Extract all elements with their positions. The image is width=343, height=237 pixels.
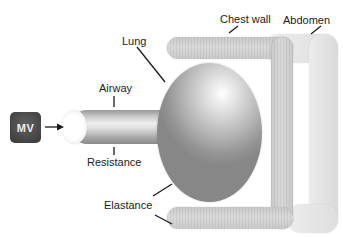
ventilation-model-diagram: MV Lung Chest wall Abdomen Airway Resist… xyxy=(0,0,343,237)
chest-wall-bottom-bar xyxy=(167,207,293,229)
lung-leader-line xyxy=(137,47,165,82)
chest-wall-right-bar xyxy=(271,37,293,229)
lung-balloon xyxy=(157,63,262,202)
lung-label: Lung xyxy=(122,35,146,47)
mv-label: MV xyxy=(17,122,35,134)
resistance-label: Resistance xyxy=(87,156,141,168)
abdomen-leader-line xyxy=(311,26,321,34)
airway-opening xyxy=(62,110,87,144)
abdomen-bottom-bar xyxy=(287,204,338,233)
mechanical-ventilator-box: MV xyxy=(10,112,41,143)
chest-wall-leader-line xyxy=(229,26,238,33)
chest-wall-label: Chest wall xyxy=(220,13,271,25)
abdomen-label: Abdomen xyxy=(283,14,330,26)
elastance-label: Elastance xyxy=(104,199,152,211)
airway-label: Airway xyxy=(99,82,132,94)
elastance-upper-leader-line xyxy=(153,184,172,196)
